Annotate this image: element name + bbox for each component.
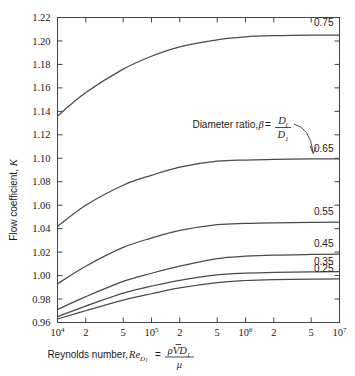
diameter-ratio-annotation: Diameter ratio, β = Dt D1	[192, 115, 316, 154]
annotation-denominator-sub: 1	[285, 135, 289, 143]
curve-label-0.25: 0.25	[314, 263, 334, 274]
y-tick-label: 0.96	[32, 317, 50, 328]
y-tick-label: 1.06	[32, 200, 50, 211]
x-tick-label: 2	[83, 327, 88, 338]
flow-coefficient-chart-figure: 1.221.201.181.161.141.121.101.081.061.04…	[0, 0, 355, 376]
annotation-arrow-curve	[294, 124, 313, 152]
x-tick-label: 107	[333, 326, 348, 338]
x-axis-title: Reynolds number, ReD1 = ρVD1 μ	[47, 345, 194, 371]
y-tick-label: 0.98	[32, 294, 50, 305]
curve-beta-0.25	[58, 279, 340, 319]
svg-text:ρVD1: ρVD1	[167, 345, 191, 359]
curve-label-0.75: 0.75	[314, 17, 334, 28]
x-axis-title-equals: =	[155, 349, 161, 360]
y-tick-label: 1.20	[32, 36, 50, 47]
y-tick-label: 1.18	[32, 59, 50, 70]
x-axis-title-re-sub-sub: 1	[145, 357, 148, 363]
y-axis-title: Flow coefficient, K	[8, 158, 19, 240]
x-tick-label: 104	[51, 326, 66, 338]
y-tick-label: 1.10	[32, 153, 50, 164]
x-tick-label: 5	[309, 327, 314, 338]
y-tick-label: 1.14	[32, 106, 51, 117]
x-tick-label: 106	[239, 326, 254, 338]
x-axis-tick-labels: 104251052510625107	[51, 326, 348, 338]
annotation-beta: β	[258, 119, 265, 130]
x-tick-label: 105	[145, 326, 160, 338]
x-tick-label: 2	[271, 327, 276, 338]
y-tick-label: 1.22	[32, 12, 50, 23]
chart-svg: 1.221.201.181.161.141.121.101.081.061.04…	[0, 0, 355, 376]
y-axis-title-symbol: K	[8, 158, 19, 167]
data-curves	[58, 35, 340, 319]
curve-label-0.45: 0.45	[314, 238, 334, 249]
x-tick-label: 5	[121, 327, 126, 338]
y-tick-label: 1.16	[32, 82, 50, 93]
x-tick-label: 2	[177, 327, 182, 338]
curve-beta-0.55	[58, 222, 340, 284]
x-tick-label: 5	[215, 327, 220, 338]
annotation-equals: =	[265, 119, 271, 130]
y-axis-tick-labels: 1.221.201.181.161.141.121.101.081.061.04…	[32, 12, 51, 328]
curve-beta-0.75	[58, 35, 340, 116]
curve-end-labels: 0.750.650.550.450.350.25	[314, 17, 334, 274]
curve-beta-0.65	[58, 159, 340, 226]
svg-text:Dt: Dt	[277, 115, 289, 129]
x-axis-title-mu: μ	[176, 359, 182, 370]
y-tick-label: 1.04	[32, 223, 51, 234]
curve-beta-0.35	[58, 272, 340, 317]
y-tick-label: 1.00	[32, 270, 50, 281]
y-tick-label: 1.08	[32, 176, 50, 187]
svg-text:Flow coefficient, K: Flow coefficient, K	[8, 158, 19, 240]
curve-label-0.65: 0.65	[314, 143, 334, 154]
curve-label-0.55: 0.55	[314, 206, 334, 217]
x-axis-title-re: Re	[128, 349, 140, 360]
y-tick-label: 1.12	[32, 129, 50, 140]
annotation-prefix: Diameter ratio,	[192, 119, 258, 130]
x-axis-title-prefix: Reynolds number,	[47, 349, 128, 360]
svg-text:ReD1: ReD1	[128, 349, 148, 363]
y-tick-label: 1.02	[32, 247, 50, 258]
svg-text:D1: D1	[276, 129, 288, 143]
y-axis-title-text: Flow coefficient,	[8, 166, 19, 240]
